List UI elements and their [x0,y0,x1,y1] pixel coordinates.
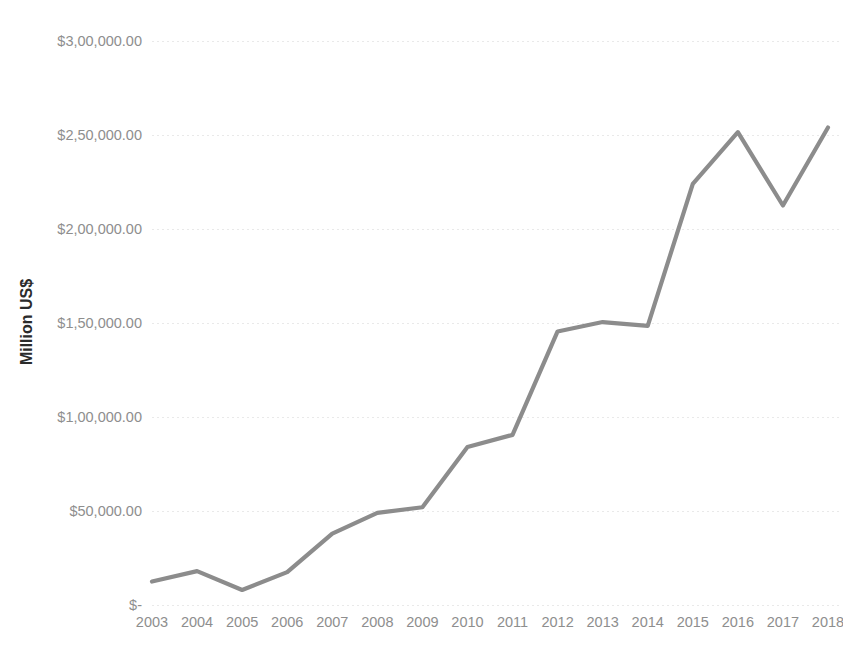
y-axis-tick-label: $2,50,000.00 [57,127,142,143]
x-axis-tick-label: 2017 [767,614,799,630]
y-axis-tick-label: $1,00,000.00 [57,409,142,425]
x-axis-tick-label: 2005 [226,614,258,630]
x-axis-tick-label: 2018 [812,614,843,630]
y-axis-tick-label: $3,00,000.00 [57,33,142,49]
y-axis-tick-label: $2,00,000.00 [57,221,142,237]
y-axis-tick-label: $- [129,597,142,613]
x-axis-tick-label: 2007 [316,614,348,630]
x-axis-tick-label: 2009 [406,614,438,630]
x-axis-tick-label: 2012 [541,614,573,630]
x-axis-tick-label: 2010 [451,614,483,630]
y-axis-tick-label: $1,50,000.00 [57,315,142,331]
chart-canvas: $-$50,000.00$1,00,000.00$1,50,000.00$2,0… [0,0,843,654]
x-axis-tick-label: 2006 [271,614,303,630]
x-axis-tick-label: 2015 [677,614,709,630]
line-chart: $-$50,000.00$1,00,000.00$1,50,000.00$2,0… [0,0,843,654]
y-axis-title: Million US$ [18,279,35,365]
x-axis-tick-label: 2008 [361,614,393,630]
x-axis-tick-label: 2004 [181,614,213,630]
x-axis-tick-label: 2003 [136,614,168,630]
x-axis-tick-label: 2014 [632,614,664,630]
x-axis-tick-label: 2013 [587,614,619,630]
y-axis-tick-label: $50,000.00 [69,503,142,519]
x-axis-tick-label: 2016 [722,614,754,630]
x-axis-tick-label: 2011 [497,614,528,630]
